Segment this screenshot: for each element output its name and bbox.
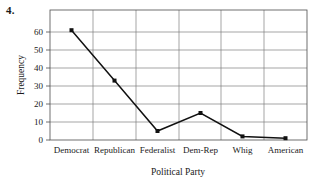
x-label-republican: Republican (94, 145, 135, 155)
plot-frame (50, 10, 307, 140)
vertical-gridlines (93, 10, 264, 140)
x-label-federalist: Federalist (140, 145, 176, 155)
horizontal-gridlines (50, 32, 307, 122)
data-point-federalist (156, 129, 160, 133)
x-label-dem-rep: Dem-Rep (183, 145, 218, 155)
x-label-whig: Whig (233, 145, 253, 155)
data-point-democrat (70, 28, 74, 32)
data-point-dem-rep (199, 111, 203, 115)
y-tick-label-40: 40 (34, 63, 44, 73)
x-axis-category-labels: Democrat Republican Federalist Dem-Rep W… (54, 145, 304, 155)
x-axis-title: Political Party (151, 167, 205, 177)
data-point-markers (70, 28, 288, 140)
y-tick-label-30: 30 (34, 81, 44, 91)
y-tick-label-60: 60 (34, 27, 44, 37)
data-point-republican (113, 79, 117, 83)
y-tick-label-50: 50 (34, 45, 44, 55)
x-label-democrat: Democrat (54, 145, 90, 155)
y-axis-title: Frequency (16, 55, 26, 95)
y-tick-label-10: 10 (34, 117, 44, 127)
frequency-line-chart: 0 10 20 30 40 50 60 Frequency Democrat R… (0, 0, 318, 187)
y-axis-tick-labels: 0 10 20 30 40 50 60 (34, 27, 44, 145)
data-point-american (284, 136, 288, 140)
figure-container: 4. (0, 0, 318, 187)
x-label-american: American (268, 145, 304, 155)
y-axis-ticks (46, 32, 50, 140)
y-tick-label-0: 0 (39, 135, 44, 145)
y-tick-label-20: 20 (34, 99, 44, 109)
data-point-whig (241, 134, 245, 138)
